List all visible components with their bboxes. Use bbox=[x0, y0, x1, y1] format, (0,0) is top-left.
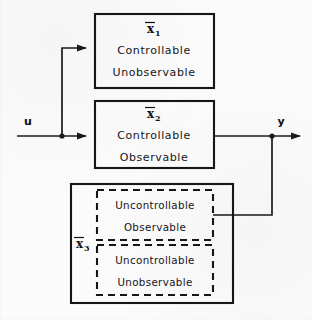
wire-input-to-x1 bbox=[62, 48, 86, 136]
block-x1-state-label: x 1 bbox=[145, 22, 161, 38]
output-signal-label: y bbox=[277, 115, 284, 128]
block-x2[interactable]: x 2 Controllable Observable bbox=[95, 101, 214, 168]
block-diagram-svg: x 1 Controllable Unobservable x 2 Contro… bbox=[0, 0, 312, 320]
block-x2-state-subscript: 2 bbox=[155, 113, 161, 123]
block-x3a[interactable]: Uncontrollable Observable bbox=[97, 190, 213, 240]
block-x2-state-label: x 2 bbox=[145, 107, 161, 123]
block-x3a-line-2: Observable bbox=[124, 221, 186, 233]
wire-x3a-to-output bbox=[213, 136, 272, 215]
block-x2-line-1: Controllable bbox=[117, 129, 191, 142]
block-x1-state-subscript: 1 bbox=[155, 28, 161, 38]
input-junction-dot bbox=[59, 133, 64, 138]
block-x3b-line-2: Unobservable bbox=[117, 276, 192, 288]
input-signal-label: u bbox=[24, 115, 32, 128]
block-x1-line-2: Unobservable bbox=[112, 66, 195, 79]
block-x3-state-label: x 3 bbox=[74, 237, 90, 253]
block-x2-state-letter: x bbox=[147, 107, 155, 121]
block-x2-line-2: Observable bbox=[120, 151, 189, 164]
block-x3[interactable]: x 3 Uncontrollable Observable Uncontroll… bbox=[71, 184, 233, 303]
block-x3-state-subscript: 3 bbox=[84, 243, 90, 253]
block-x1-line-1: Controllable bbox=[117, 44, 191, 57]
block-x3b[interactable]: Uncontrollable Unobservable bbox=[97, 245, 213, 295]
block-x3b-line-1: Uncontrollable bbox=[115, 254, 195, 266]
block-x1[interactable]: x 1 Controllable Unobservable bbox=[95, 14, 214, 88]
block-x1-state-letter: x bbox=[147, 22, 155, 36]
block-x3a-line-1: Uncontrollable bbox=[115, 199, 195, 211]
output-junction-dot bbox=[269, 133, 274, 138]
block-x3-state-letter: x bbox=[76, 237, 84, 251]
diagram-canvas: x 1 Controllable Unobservable x 2 Contro… bbox=[0, 0, 312, 320]
